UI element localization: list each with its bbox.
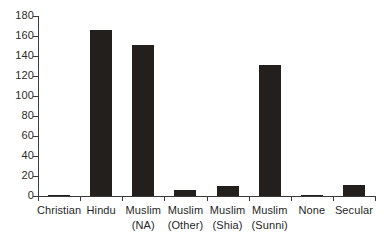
x-axis-label-line1: Secular — [326, 203, 382, 218]
x-axis-label: Secular — [326, 203, 382, 218]
x-tick-mark — [122, 196, 123, 201]
x-tick-mark — [38, 196, 39, 201]
y-tick-label: 120 — [15, 69, 34, 82]
x-axis-label-line2: (Sunni) — [242, 218, 298, 233]
bar[interactable] — [132, 45, 154, 196]
x-tick-mark — [207, 196, 208, 201]
x-tick-mark — [80, 196, 81, 201]
y-tick-label: 180 — [15, 9, 34, 22]
bar[interactable] — [217, 186, 239, 196]
bar[interactable] — [90, 30, 112, 196]
y-tick-label: 100 — [15, 89, 34, 102]
x-tick-mark — [249, 196, 250, 201]
bar[interactable] — [259, 65, 281, 196]
x-tick-mark — [333, 196, 334, 201]
bar[interactable] — [343, 185, 365, 196]
x-tick-mark — [291, 196, 292, 201]
x-tick-mark — [164, 196, 165, 201]
plot-area — [38, 16, 375, 196]
x-tick-mark — [375, 196, 376, 201]
y-tick-label: 140 — [15, 49, 34, 62]
bar-chart: 020406080100120140160180 ChristianHinduM… — [0, 0, 390, 239]
y-tick-label: 160 — [15, 29, 34, 42]
